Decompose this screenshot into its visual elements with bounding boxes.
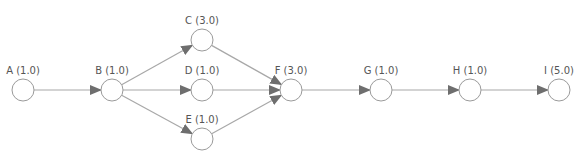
node-label: A (1.0) [6,65,40,76]
node-circle[interactable] [191,79,213,101]
node-d[interactable]: D (1.0) [185,65,220,101]
node-label: E (1.0) [185,114,218,125]
edge-c-f [212,45,282,84]
node-circle[interactable] [191,29,213,51]
node-label: H (1.0) [453,65,488,76]
node-circle[interactable] [12,79,34,101]
node-circle[interactable] [191,128,213,150]
node-label: C (3.0) [185,15,219,26]
edge-b-c [122,45,193,84]
node-label: D (1.0) [185,65,220,76]
node-g[interactable]: G (1.0) [364,65,399,101]
node-label: F (3.0) [275,65,308,76]
nodes-layer: A (1.0)B (1.0)C (3.0)D (1.0)E (1.0)F (3.… [6,15,574,150]
node-circle[interactable] [101,79,123,101]
node-h[interactable]: H (1.0) [453,65,488,101]
node-a[interactable]: A (1.0) [6,65,40,101]
node-circle[interactable] [370,79,392,101]
edge-b-e [122,95,193,133]
node-label: B (1.0) [95,65,129,76]
node-label: I (5.0) [544,65,574,76]
node-circle[interactable] [548,79,570,101]
node-label: G (1.0) [364,65,399,76]
node-i[interactable]: I (5.0) [544,65,574,101]
node-circle[interactable] [459,79,481,101]
edge-e-f [212,95,282,133]
node-c[interactable]: C (3.0) [185,15,219,51]
node-circle[interactable] [280,79,302,101]
network-diagram: A (1.0)B (1.0)C (3.0)D (1.0)E (1.0)F (3.… [0,0,580,158]
